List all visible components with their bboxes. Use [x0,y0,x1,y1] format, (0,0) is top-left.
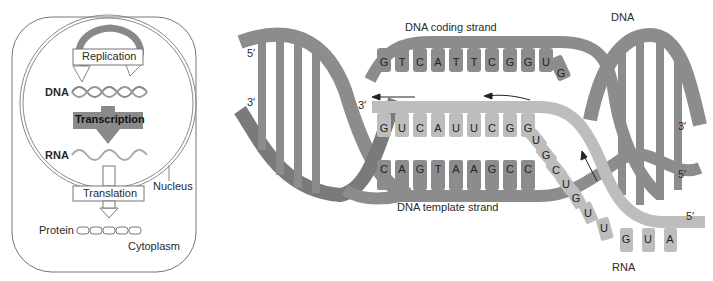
rna-base: G [380,122,389,134]
rna-tail-base: U [644,233,652,245]
end-label-rna-3prime: 3′ [358,99,366,111]
rna-base: G [524,122,533,134]
end-label-5prime-right: 5′ [678,168,686,180]
rna-tail-base: U [584,207,592,219]
rna-base: U [398,122,406,134]
dna-label: DNA [611,11,634,23]
rna-tail-base: C [552,164,560,176]
coding-base: T [471,56,478,68]
coding-strand-label: DNA coding strand [405,21,497,33]
coding-base: A [434,56,442,68]
rna-base: C [488,122,496,134]
rna-tail-base: G [572,192,581,204]
rna-label: RNA [612,261,635,273]
rna-tail-base: G [542,149,551,161]
coding-base: U [542,56,550,68]
rna-tail-base: A [666,233,674,245]
coding-base: G [524,56,533,68]
template-base: A [470,163,478,175]
base-letters: G T C A T T C G G U G G U C A U U C G G … [0,0,713,281]
rna-tail-base: U [562,178,570,190]
rna-tail-base: G [622,233,631,245]
template-base: G [416,163,425,175]
rna-base: U [470,122,478,134]
template-base: C [506,163,514,175]
transcription-detail-panel: G T C A T T C G G U G G U C A U U C G G … [0,0,713,281]
coding-base: G [557,67,566,79]
template-base: C [524,163,532,175]
end-label-3prime-right: 3′ [678,120,686,132]
rna-base: C [416,122,424,134]
template-base: A [452,163,460,175]
template-strand-label: DNA template strand [397,201,499,213]
template-base: T [435,163,442,175]
end-label-rna-5prime: 5′ [686,210,694,222]
coding-base: C [488,56,496,68]
template-base: C [380,163,388,175]
coding-base: C [416,56,424,68]
coding-base: G [506,56,515,68]
coding-base: T [453,56,460,68]
template-base: G [488,163,497,175]
coding-base: G [380,56,389,68]
rna-tail-base: U [600,222,608,234]
end-label-3prime-left: 3′ [247,96,255,108]
coding-base: T [399,56,406,68]
rna-base: G [506,122,515,134]
end-label-5prime-left: 5′ [247,47,255,59]
rna-base: A [434,122,442,134]
rna-base: U [452,122,460,134]
rna-tail-base: U [532,134,540,146]
template-base: A [398,163,406,175]
